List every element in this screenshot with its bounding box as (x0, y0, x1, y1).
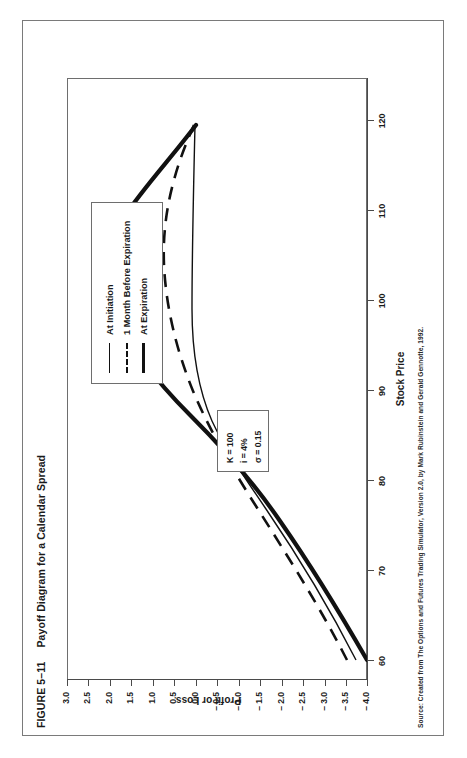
y-tick--2.5 (303, 680, 304, 686)
y-axis-title: Profit or Loss (139, 695, 279, 706)
figure-caption: FIGURE 5–11Payoff Diagram for a Calendar… (35, 455, 47, 728)
x-tick-70 (368, 570, 374, 571)
y-tick-0.5 (174, 680, 175, 686)
x-tick-90 (368, 390, 374, 391)
x-tick-110 (368, 210, 374, 211)
legend-label-at-expiration: At Expiration (139, 278, 149, 335)
y-label-2.0: 2.0 (104, 692, 114, 722)
y-tick-1.5 (131, 680, 132, 686)
y-tick-2.5 (88, 680, 89, 686)
x-tick-80 (368, 480, 374, 481)
x-tick-100 (368, 300, 374, 301)
figure-rotated-stage: FIGURE 5–11Payoff Diagram for a Calendar… (31, 28, 435, 728)
legend-label-at-initiation: At Initiation (105, 284, 115, 335)
series-at-initiation-path (192, 125, 356, 660)
param-interest-rate: i = 4% (237, 411, 251, 463)
x-axis-line (367, 78, 368, 680)
x-tick-120 (368, 120, 374, 121)
x-axis-title: Stock Price (395, 78, 406, 680)
y-label--3.0: – 3.0 (319, 692, 329, 722)
x-label-60: 60 (377, 646, 387, 676)
y-tick-0.0 (196, 680, 197, 686)
x-label-110: 110 (377, 196, 387, 226)
y-label-1.5: 1.5 (125, 692, 135, 722)
y-tick--1.0 (239, 680, 240, 686)
param-volatility: σ = 0.15 (251, 411, 265, 463)
x-label-70: 70 (377, 556, 387, 586)
param-strike: K = 100 (223, 411, 237, 463)
legend-item-1-month-before-expiration: 1 Month Before Expiration (118, 213, 135, 373)
y-label-2.5: 2.5 (82, 692, 92, 722)
y-label--2.5: – 2.5 (297, 692, 307, 722)
figure-title: Payoff Diagram for a Calendar Spread (35, 455, 47, 648)
legend-key-dashed-icon (126, 343, 128, 373)
figure-source-note: Source: Created from The Options and Fut… (417, 327, 424, 728)
x-label-80: 80 (377, 466, 387, 496)
chart-legend: At Initiation 1 Month Before Expiration … (91, 202, 163, 384)
legend-key-thin-solid-icon (109, 343, 110, 373)
y-tick--1.5 (260, 680, 261, 686)
y-label--3.5: – 3.5 (340, 692, 350, 722)
y-tick-1.0 (153, 680, 154, 686)
page-border: FIGURE 5–11Payoff Diagram for a Calendar… (22, 20, 444, 736)
legend-label-1-month-before-expiration: 1 Month Before Expiration (122, 221, 132, 335)
x-label-100: 100 (377, 286, 387, 316)
y-tick-2.0 (110, 680, 111, 686)
x-tick-60 (368, 660, 374, 661)
y-tick-3.0 (67, 680, 68, 686)
y-tick--2.0 (282, 680, 283, 686)
legend-item-at-expiration: At Expiration (135, 213, 152, 373)
figure-number: FIGURE 5–11 (35, 662, 47, 728)
y-tick--0.5 (217, 680, 218, 686)
x-label-120: 120 (377, 106, 387, 136)
legend-item-at-initiation: At Initiation (101, 213, 118, 373)
y-tick--3.5 (346, 680, 347, 686)
y-label-3.0: 3.0 (61, 692, 71, 722)
y-label--4.0: – 4.0 (361, 692, 371, 722)
y-tick--4.0 (367, 680, 368, 686)
x-label-90: 90 (377, 376, 387, 406)
y-tick--3.0 (325, 680, 326, 686)
parameter-box: K = 100 i = 4% σ = 0.15 (217, 410, 269, 472)
legend-key-thick-solid-icon (142, 343, 145, 373)
